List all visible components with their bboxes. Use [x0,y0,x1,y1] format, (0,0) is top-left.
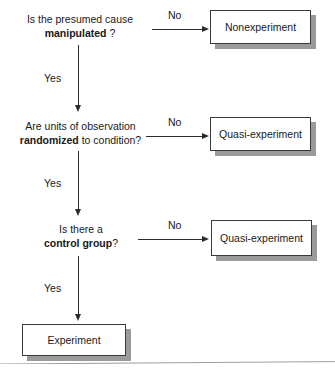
outcome-box-quasi-experiment-1[interactable]: Quasi-experiment [210,117,311,151]
decision-control-group: Is there a control group? [28,222,134,250]
outcome-box-quasi-experiment-2[interactable]: Quasi-experiment [211,220,312,256]
decision-manipulated-line1: Is the presumed cause [10,12,150,26]
arrowhead-no-2-icon [202,133,209,139]
bottom-divider-line [0,361,335,364]
decision-randomized-line1: Are units of observation [8,119,153,133]
connector-yes-3 [78,256,79,316]
arrowhead-yes-2-icon [75,209,81,216]
connector-no-3 [138,239,203,240]
decision-control-group-line2: control group? [28,236,134,250]
edge-label-no-1: No [168,9,181,21]
edge-label-no-3: No [168,219,181,231]
decision-randomized: Are units of observation randomized to c… [8,119,153,147]
edge-label-yes-1: Yes [44,72,61,84]
decision-randomized-keyword: randomized [20,134,79,146]
edge-label-yes-2: Yes [44,177,61,189]
outcome-label-quasi-experiment-2: Quasi-experiment [220,232,303,244]
decision-randomized-line2: randomized to condition? [8,133,153,147]
connector-yes-1 [78,45,79,107]
decision-manipulated-line2: manipulated ? [10,26,150,40]
decision-manipulated: Is the presumed cause manipulated ? [10,12,150,40]
bottom-divider [0,361,335,364]
arrowhead-yes-1-icon [75,105,81,112]
decision-control-group-line1: Is there a [28,222,134,236]
outcome-label-nonexperiment: Nonexperiment [225,21,296,33]
edge-label-yes-3: Yes [44,282,61,294]
decision-randomized-line2-suffix: to condition? [79,134,141,146]
outcome-box-experiment[interactable]: Experiment [22,324,126,356]
connector-yes-2 [78,151,79,211]
arrowhead-no-1-icon [202,26,209,32]
outcome-label-quasi-experiment-1: Quasi-experiment [219,128,302,140]
connector-no-2 [146,136,203,137]
outcome-label-experiment: Experiment [47,334,100,346]
decision-control-group-keyword: control group [44,237,112,249]
decision-manipulated-keyword: manipulated [45,27,107,39]
flowchart-canvas: Is the presumed cause manipulated ? No N… [0,0,335,373]
decision-control-group-line2-suffix: ? [112,237,118,249]
outcome-box-nonexperiment[interactable]: Nonexperiment [210,10,311,44]
arrowhead-no-3-icon [202,236,209,242]
decision-manipulated-line2-suffix: ? [107,27,116,39]
edge-label-no-2: No [168,116,181,128]
arrowhead-yes-3-icon [75,314,81,321]
connector-no-1 [152,29,203,30]
